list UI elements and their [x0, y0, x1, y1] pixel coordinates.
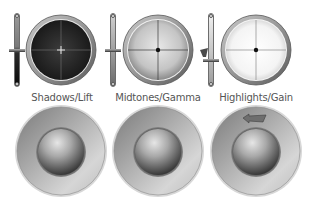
- midtones-trackball[interactable]: [112, 105, 204, 197]
- shadows-trackball[interactable]: [15, 105, 107, 197]
- highlights-center-mark-icon[interactable]: [254, 48, 258, 52]
- shadows-color-wheel[interactable]: [26, 15, 96, 85]
- midtones-center-mark-icon[interactable]: [156, 48, 160, 52]
- graphics-layer: [0, 0, 314, 207]
- highlights-color-wheel[interactable]: [221, 15, 291, 85]
- highlights-gain-label: Highlights/Gain: [208, 92, 304, 103]
- midtones-gamma-label: Midtones/Gamma: [110, 92, 206, 103]
- highlights-trackball[interactable]: [210, 105, 302, 197]
- midtones-trackball-ball[interactable]: [135, 129, 181, 175]
- shadows-trackball-ball[interactable]: [38, 129, 84, 175]
- pointer-triangle-icon: [200, 48, 208, 57]
- highlights-trackball-ball[interactable]: [233, 129, 279, 175]
- midtones-color-wheel[interactable]: [123, 15, 193, 85]
- shadows-lift-label: Shadows/Lift: [14, 92, 110, 103]
